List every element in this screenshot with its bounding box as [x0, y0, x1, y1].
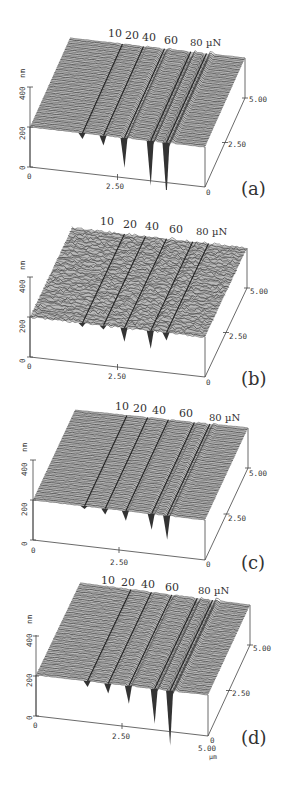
y-tick-2.50: 2.50: [232, 689, 250, 698]
panel-label: (d): [241, 727, 267, 748]
force-label-40: 40: [145, 220, 159, 233]
y-tick-5.00: 5.00: [253, 644, 271, 653]
z-tick-200: 200: [20, 502, 29, 516]
force-label-60: 60: [164, 34, 178, 47]
z-unit-label: nm: [25, 615, 34, 624]
x-tick-0: 0: [33, 721, 38, 730]
y-tick-5.00: 5.00: [249, 469, 267, 478]
force-label-60: 60: [169, 223, 183, 236]
afm-panel-d: 10 20 40 60 80 µN nm 400 200 0 0 2.50 5.…: [0, 570, 292, 787]
y-tick-5.00: 5.00: [250, 287, 268, 296]
y-tick-2.50: 2.50: [228, 140, 246, 149]
z-tick-400: 400: [20, 462, 29, 476]
force-label-80: 80 µN: [190, 37, 221, 48]
x-tick-0: 0: [27, 362, 32, 371]
x-tick-2.50: 2.50: [112, 732, 130, 741]
force-label-80: 80 µN: [196, 226, 227, 237]
force-label-10: 10: [101, 574, 115, 587]
force-label-80: 80 µN: [198, 585, 229, 596]
y-tick-0: 0: [210, 736, 215, 745]
force-label-40: 40: [142, 31, 156, 44]
afm-panel-b: 10 20 40 60 80 µN nm 400 200 0 0 2.50 0 …: [0, 190, 292, 380]
z-tick-0: 0: [20, 541, 29, 546]
x-tick-0: 0: [27, 172, 32, 181]
z-tick-0: 0: [25, 715, 34, 720]
y-tick-2.50: 2.50: [229, 332, 247, 341]
force-label-20: 20: [133, 402, 147, 415]
x-tick-0: 0: [31, 546, 36, 555]
z-tick-200: 200: [18, 126, 27, 140]
force-label-20: 20: [123, 218, 137, 231]
afm-surface-plot: [0, 570, 292, 787]
force-label-10: 10: [100, 215, 114, 228]
afm-panel-a: 10 20 40 60 80 µN nm 400 200 0 0 2.50 0 …: [0, 0, 292, 190]
z-tick-0: 0: [18, 358, 27, 363]
z-tick-400: 400: [18, 279, 27, 293]
y-tick-5.00: 5.00: [249, 95, 267, 104]
force-label-10: 10: [108, 27, 122, 40]
y-tick-2.50: 2.50: [228, 514, 246, 523]
force-label-20: 20: [125, 29, 139, 42]
z-unit-label: nm: [18, 69, 27, 78]
xy-unit-label: µm: [209, 753, 217, 761]
force-label-40: 40: [141, 578, 155, 591]
force-label-40: 40: [152, 404, 166, 417]
afm-panel-c: 10 20 40 60 80 µN nm 400 200 0 0 2.50 0 …: [0, 380, 292, 570]
z-tick-0: 0: [18, 165, 27, 170]
afm-surface-plot: [0, 190, 292, 380]
y-tick-0: 0: [206, 560, 211, 569]
z-unit-label: nm: [20, 443, 29, 452]
z-tick-200: 200: [25, 673, 34, 687]
z-unit-label: nm: [18, 261, 27, 270]
force-label-60: 60: [165, 581, 179, 594]
x-tick-2.50: 2.50: [110, 558, 128, 567]
force-label-60: 60: [179, 407, 193, 420]
z-tick-200: 200: [18, 319, 27, 333]
force-label-20: 20: [121, 576, 135, 589]
z-tick-400: 400: [25, 633, 34, 647]
force-label-10: 10: [115, 400, 129, 413]
force-label-80: 80 µN: [209, 412, 240, 423]
x-tick-5.00: 5.00: [198, 744, 216, 753]
z-tick-400: 400: [18, 86, 27, 100]
